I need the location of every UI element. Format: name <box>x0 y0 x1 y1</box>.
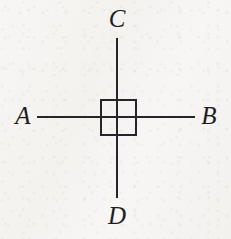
diagram-canvas: A B C D <box>0 0 231 239</box>
label-a: A <box>8 103 38 128</box>
label-d: D <box>102 203 132 228</box>
label-c: C <box>102 6 132 31</box>
label-b: B <box>194 103 224 128</box>
center-square <box>100 99 137 136</box>
